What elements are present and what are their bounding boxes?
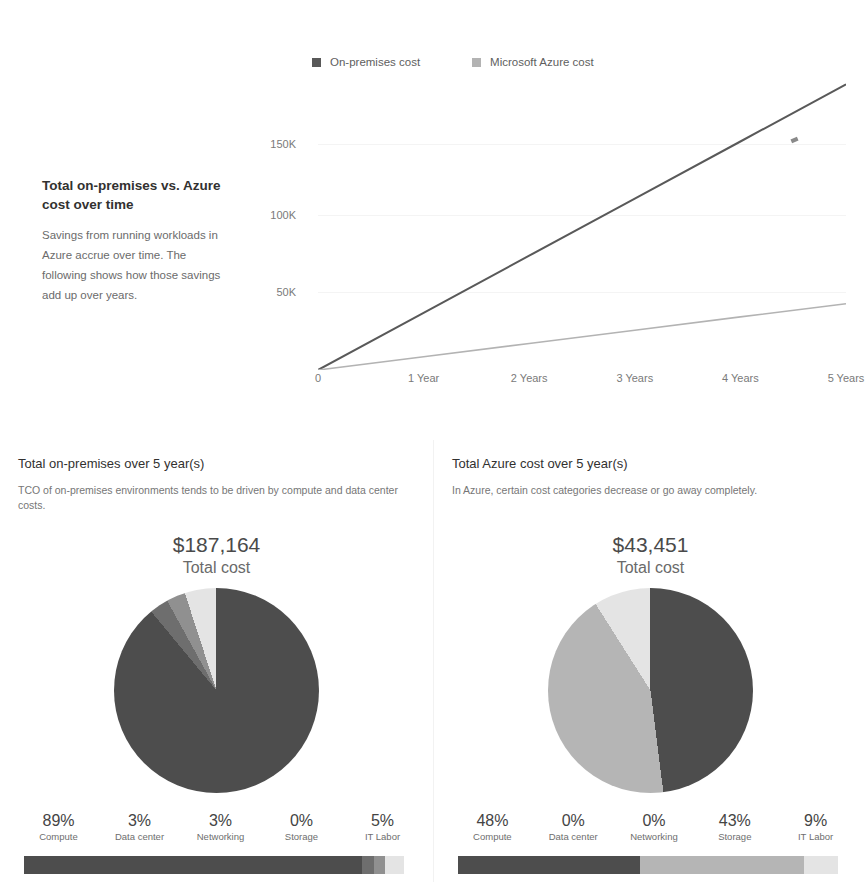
breakdown-category-label: Networking xyxy=(614,830,695,844)
breakdown-legend-cell[interactable]: 43%Storage xyxy=(694,811,775,844)
chart-title: Total on-premises vs. Azure cost over ti… xyxy=(42,176,232,214)
color-bar-segment xyxy=(374,856,385,874)
breakdown-category-label: IT Labor xyxy=(775,830,856,844)
breakdown-legend-cell[interactable]: 3%Networking xyxy=(180,811,261,844)
breakdown-category-label: Data center xyxy=(533,830,614,844)
breakdown-legend-cell[interactable]: 5%IT Labor xyxy=(342,811,423,844)
breakdown-percent: 9% xyxy=(775,811,856,830)
x-axis-tick-label: 1 Year xyxy=(408,372,439,384)
chart-description: Total on-premises vs. Azure cost over ti… xyxy=(42,176,232,305)
panel-title: Total on-premises over 5 year(s) xyxy=(18,456,415,471)
chart-description-text: Savings from running workloads in Azure … xyxy=(42,226,232,305)
panel-subtitle: In Azure, certain cost categories decrea… xyxy=(452,483,848,498)
breakdown-category-label: Data center xyxy=(99,830,180,844)
x-axis: 0 1 Year 2 Years 3 Years 4 Years 5 Years xyxy=(318,372,846,394)
breakdown-color-bar xyxy=(24,856,404,874)
breakdown-percent: 89% xyxy=(18,811,99,830)
x-axis-tick-label: 5 Years xyxy=(828,372,865,384)
series-line-microsoft-azure-cost xyxy=(318,304,846,370)
panel-header: Total Azure cost over 5 year(s) In Azure… xyxy=(434,440,866,498)
legend-entry-on-premises-cost[interactable]: On-premises cost xyxy=(312,56,420,68)
breakdown-percent: 5% xyxy=(342,811,423,830)
breakdown-category-label: IT Labor xyxy=(342,830,423,844)
panel-on-premises: Total on-premises over 5 year(s) TCO of … xyxy=(0,440,433,882)
breakdown-legend-cell[interactable]: 0%Networking xyxy=(614,811,695,844)
y-axis-tick-label: 50K xyxy=(276,286,296,298)
total-cost-caption: Total cost xyxy=(0,558,433,578)
x-axis-tick-label: 0 xyxy=(315,372,321,384)
breakdown-percent: 3% xyxy=(99,811,180,830)
x-axis-tick-label: 3 Years xyxy=(616,372,653,384)
breakdown-legend-cell[interactable]: 0%Data center xyxy=(533,811,614,844)
line-chart-plot: 150K 100K 50K 0 1 Year 2 Years 3 Years 4… xyxy=(262,80,852,395)
breakdown-category-label: Storage xyxy=(261,830,342,844)
x-axis-tick-label: 2 Years xyxy=(511,372,548,384)
color-bar-segment xyxy=(24,856,362,874)
breakdown-category-label: Networking xyxy=(180,830,261,844)
panel-header: Total on-premises over 5 year(s) TCO of … xyxy=(0,440,433,512)
breakdown-percent: 0% xyxy=(261,811,342,830)
y-axis-tick-label: 150K xyxy=(270,138,296,150)
breakdown-legend-row: 48%Compute0%Data center0%Networking43%St… xyxy=(452,811,856,844)
color-bar-segment xyxy=(458,856,640,874)
line-series-group xyxy=(318,80,846,370)
pie-chart-wrap xyxy=(0,588,433,803)
total-cost-amount: $43,451 xyxy=(434,532,866,558)
panel-azure: Total Azure cost over 5 year(s) In Azure… xyxy=(433,440,866,882)
legend-label: Microsoft Azure cost xyxy=(490,56,594,68)
breakdown-percent: 48% xyxy=(452,811,533,830)
total-cost-amount: $187,164 xyxy=(0,532,433,558)
y-axis-tick-label: 100K xyxy=(270,209,296,221)
pie-chart-azure[interactable] xyxy=(548,588,753,793)
breakdown-percent: 3% xyxy=(180,811,261,830)
cost-over-time-section: On-premises cost Microsoft Azure cost To… xyxy=(0,0,866,430)
cost-breakdown-panels: Total on-premises over 5 year(s) TCO of … xyxy=(0,440,866,882)
total-cost-block: $187,164 Total cost xyxy=(0,532,433,578)
breakdown-legend-cell[interactable]: 0%Storage xyxy=(261,811,342,844)
breakdown-legend-row: 89%Compute3%Data center3%Networking0%Sto… xyxy=(18,811,423,844)
color-bar-segment xyxy=(804,856,838,874)
breakdown-percent: 43% xyxy=(694,811,775,830)
breakdown-category-label: Compute xyxy=(452,830,533,844)
total-cost-block: $43,451 Total cost xyxy=(434,532,866,578)
pie-chart-on-premises[interactable] xyxy=(114,588,319,793)
pie-chart-wrap xyxy=(434,588,866,803)
breakdown-percent: 0% xyxy=(533,811,614,830)
breakdown-percent: 0% xyxy=(614,811,695,830)
color-bar-segment xyxy=(385,856,404,874)
breakdown-category-label: Compute xyxy=(18,830,99,844)
chart-legend: On-premises cost Microsoft Azure cost xyxy=(312,56,594,68)
panel-subtitle: TCO of on-premises environments tends to… xyxy=(18,483,415,512)
panel-title: Total Azure cost over 5 year(s) xyxy=(452,456,848,471)
breakdown-legend-cell[interactable]: 9%IT Labor xyxy=(775,811,856,844)
breakdown-legend-cell[interactable]: 3%Data center xyxy=(99,811,180,844)
legend-entry-microsoft-azure-cost[interactable]: Microsoft Azure cost xyxy=(472,56,594,68)
breakdown-legend-cell[interactable]: 48%Compute xyxy=(452,811,533,844)
breakdown-category-label: Storage xyxy=(694,830,775,844)
breakdown-color-bar xyxy=(458,856,838,874)
legend-label: On-premises cost xyxy=(330,56,420,68)
color-bar-segment xyxy=(362,856,373,874)
total-cost-caption: Total cost xyxy=(434,558,866,578)
color-bar-segment xyxy=(640,856,803,874)
breakdown-legend-cell[interactable]: 89%Compute xyxy=(18,811,99,844)
legend-swatch-icon xyxy=(312,58,321,67)
legend-swatch-icon xyxy=(472,58,481,67)
series-line-on-premises-cost xyxy=(318,84,846,370)
x-axis-tick-label: 4 Years xyxy=(722,372,759,384)
